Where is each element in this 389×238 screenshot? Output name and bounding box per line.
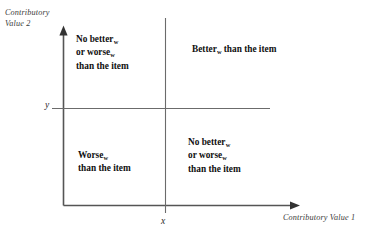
x-tick-label: x [161, 216, 165, 226]
quadrant-label-line: No betterw [76, 33, 129, 46]
quadrant-diagram: Contributory Value 2 Contributory Value … [0, 0, 389, 238]
quadrant-label-text: No better [76, 34, 113, 44]
subscript-w: w [114, 38, 119, 45]
quadrant-label-text: Worse [78, 150, 103, 160]
x-axis-title: Contributory Value 1 [283, 213, 388, 224]
quadrant-label-top-left: No betterw or worsew than the item [76, 33, 129, 72]
quadrant-label-line: than the item [76, 60, 129, 72]
quadrant-label-line: No betterw [188, 136, 241, 149]
quadrant-label-line: or worsew [188, 149, 241, 162]
quadrant-label-text: No better [188, 137, 225, 147]
quadrant-label-bottom-left: Worsew than the item [78, 149, 131, 175]
quadrant-label-text: or worse [188, 150, 222, 160]
axes-graphic [0, 0, 389, 238]
quadrant-label-line: Worsew [78, 149, 131, 162]
quadrant-label-text: or worse [76, 47, 110, 57]
quadrant-label-line: than the item [78, 162, 131, 174]
subscript-w: w [226, 141, 231, 148]
subscript-w: w [110, 51, 115, 58]
quadrant-label-line: or worsew [76, 46, 129, 59]
quadrant-label-line: than the item [188, 163, 241, 175]
subscript-w: w [217, 48, 222, 55]
quadrant-label-bottom-right: No betterw or worsew than the item [188, 136, 241, 175]
y-axis-title: Contributory Value 2 [5, 8, 75, 29]
quadrant-label-top-right: Betterw than the item [192, 43, 276, 56]
subscript-w: w [104, 154, 109, 161]
subscript-w: w [222, 154, 227, 161]
y-tick-label: y [45, 100, 49, 110]
y-axis-line [59, 26, 67, 206]
quadrant-label-tail: than the item [221, 44, 276, 54]
x-axis-line [64, 201, 301, 209]
quadrant-label-text: Better [192, 44, 217, 54]
quadrant-label-line: Betterw than the item [192, 43, 276, 56]
